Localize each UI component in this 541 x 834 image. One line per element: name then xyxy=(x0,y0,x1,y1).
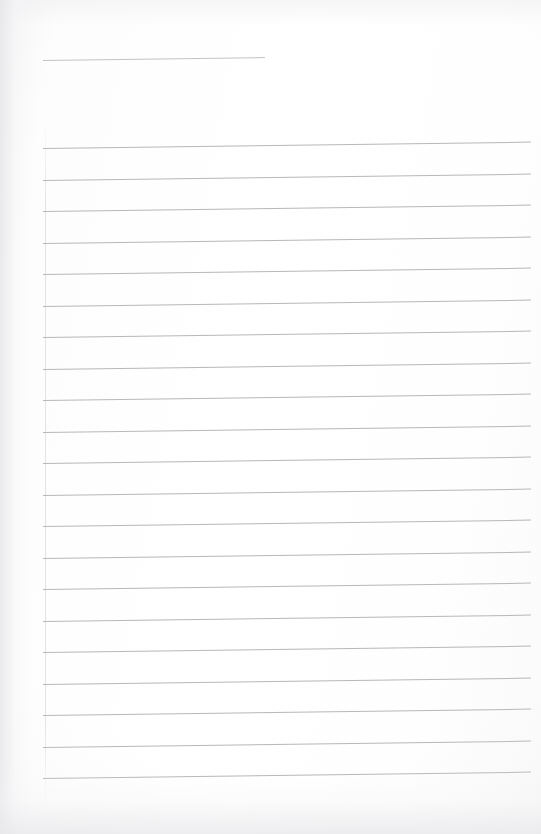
ruled-line xyxy=(43,425,531,432)
ruled-line xyxy=(43,488,531,495)
ruled-line xyxy=(43,740,531,747)
ruled-line xyxy=(43,551,531,558)
ruled-line xyxy=(43,236,531,243)
ruled-line xyxy=(43,457,531,464)
ruled-line xyxy=(43,709,531,716)
ruled-line xyxy=(43,142,531,149)
ruled-line xyxy=(43,677,531,684)
scanned-page xyxy=(0,0,541,834)
ruled-line xyxy=(43,173,531,180)
ruled-line xyxy=(43,362,531,369)
header-rule xyxy=(43,57,265,61)
ruled-line xyxy=(43,268,531,275)
ruled-line xyxy=(43,299,531,306)
ruled-line xyxy=(43,520,531,527)
ruled-line xyxy=(43,331,531,338)
ruled-line xyxy=(43,583,531,590)
ruled-line xyxy=(43,394,531,401)
ruled-line xyxy=(43,205,531,212)
ruled-lines-layer xyxy=(0,0,541,834)
ruled-line xyxy=(43,646,531,653)
ruled-line xyxy=(43,614,531,621)
ruled-line xyxy=(43,772,531,779)
